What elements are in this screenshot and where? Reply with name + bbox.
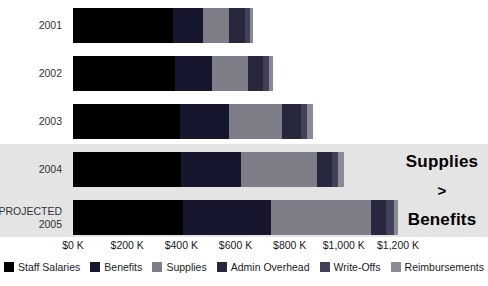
x-axis: $0 K$200 K$400 K$600 K$800 K$1,000 K$1,2… bbox=[0, 239, 488, 253]
x-tick-3: $600 K bbox=[219, 239, 252, 251]
bar-segment-write-offs bbox=[301, 104, 308, 139]
legend-item-supplies: Supplies bbox=[152, 261, 206, 273]
legend-swatch-write-offs bbox=[320, 262, 330, 272]
stacked-bar-2002 bbox=[73, 56, 273, 91]
bar-segment-admin-overhead bbox=[371, 200, 386, 235]
legend-item-write-offs: Write-Offs bbox=[320, 261, 381, 273]
x-tick-4: $800 K bbox=[273, 239, 306, 251]
row-label-2003: 2003 bbox=[0, 104, 66, 139]
legend-label-supplies: Supplies bbox=[166, 261, 206, 273]
annotation-line-1: Supplies bbox=[396, 147, 488, 176]
bar-segment-benefits bbox=[183, 200, 271, 235]
legend-swatch-benefits bbox=[90, 262, 100, 272]
bar-segment-admin-overhead bbox=[229, 8, 245, 43]
bar-segment-write-offs bbox=[332, 152, 339, 187]
stacked-bar-projected-2005 bbox=[73, 200, 398, 235]
x-tick-1: $200 K bbox=[111, 239, 144, 251]
legend-item-admin-overhead: Admin Overhead bbox=[217, 261, 310, 273]
legend-swatch-staff-salaries bbox=[4, 262, 14, 272]
bar-segment-supplies bbox=[229, 104, 282, 139]
x-tick-6: $1,200 K bbox=[377, 239, 419, 251]
stacked-bar-chart: 2001200220032004PROJECTED 2005 $0 K$200 … bbox=[0, 0, 488, 286]
bar-segment-reimbursements bbox=[269, 56, 273, 91]
bar-segment-staff-salaries bbox=[73, 56, 175, 91]
x-tick-2: $400 K bbox=[165, 239, 198, 251]
bar-segment-supplies bbox=[271, 200, 371, 235]
legend-item-benefits: Benefits bbox=[90, 261, 142, 273]
bar-segment-admin-overhead bbox=[248, 56, 263, 91]
stacked-bar-2004 bbox=[73, 152, 344, 187]
bar-segment-write-offs bbox=[386, 200, 394, 235]
bar-segment-supplies bbox=[241, 152, 317, 187]
legend-label-reimbursements: Reimbursements bbox=[405, 261, 484, 273]
row-label-2002: 2002 bbox=[0, 56, 66, 91]
annotation-supplies-gt-benefits: Supplies > Benefits bbox=[396, 147, 488, 234]
legend-swatch-admin-overhead bbox=[217, 262, 227, 272]
stacked-bar-2003 bbox=[73, 104, 313, 139]
bar-row-2003: 2003 bbox=[0, 104, 488, 152]
bar-row-2002: 2002 bbox=[0, 56, 488, 104]
bar-segment-reimbursements bbox=[307, 104, 312, 139]
bar-segment-supplies bbox=[212, 56, 247, 91]
annotation-line-3: Benefits bbox=[396, 205, 488, 234]
legend: Staff SalariesBenefitsSuppliesAdmin Over… bbox=[4, 261, 484, 273]
bar-segment-admin-overhead bbox=[317, 152, 332, 187]
stacked-bar-2001 bbox=[73, 8, 253, 43]
row-label-2001: 2001 bbox=[0, 8, 66, 43]
legend-item-staff-salaries: Staff Salaries bbox=[4, 261, 80, 273]
bar-segment-staff-salaries bbox=[73, 8, 173, 43]
bar-segment-write-offs bbox=[263, 56, 270, 91]
x-tick-5: $1,000 K bbox=[323, 239, 365, 251]
bar-segment-benefits bbox=[175, 56, 213, 91]
bar-segment-reimbursements bbox=[250, 8, 253, 43]
bar-segment-staff-salaries bbox=[73, 200, 183, 235]
bar-segment-reimbursements bbox=[338, 152, 343, 187]
bar-segment-staff-salaries bbox=[73, 104, 180, 139]
annotation-line-2: > bbox=[396, 176, 488, 205]
legend-label-write-offs: Write-Offs bbox=[334, 261, 381, 273]
x-tick-0: $0 K bbox=[62, 239, 84, 251]
bar-segment-benefits bbox=[181, 152, 241, 187]
bar-segment-benefits bbox=[173, 8, 203, 43]
row-label-2004: 2004 bbox=[0, 152, 66, 187]
legend-label-staff-salaries: Staff Salaries bbox=[18, 261, 80, 273]
legend-swatch-reimbursements bbox=[391, 262, 401, 272]
bar-segment-staff-salaries bbox=[73, 152, 181, 187]
legend-item-reimbursements: Reimbursements bbox=[391, 261, 484, 273]
bar-row-2001: 2001 bbox=[0, 8, 488, 56]
row-label-projected-2005: PROJECTED 2005 bbox=[0, 200, 66, 235]
legend-swatch-supplies bbox=[152, 262, 162, 272]
bar-segment-benefits bbox=[180, 104, 229, 139]
legend-label-benefits: Benefits bbox=[104, 261, 142, 273]
bar-segment-supplies bbox=[203, 8, 229, 43]
bar-segment-admin-overhead bbox=[282, 104, 301, 139]
legend-label-admin-overhead: Admin Overhead bbox=[231, 261, 310, 273]
